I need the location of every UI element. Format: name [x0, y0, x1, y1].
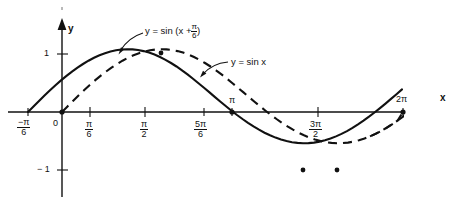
x-tick-neg-pi-6-numerator: −π [17, 118, 30, 127]
x-axis-label: x [440, 93, 446, 103]
x-tick-label-pi-6: π 6 [85, 120, 93, 140]
x-tick-pi-2-numerator: π [140, 120, 148, 129]
curve1-label-prefix: y = sin (x + [145, 25, 191, 36]
x-tick-pi-6-denominator: 6 [85, 129, 93, 139]
x-tick-label-zero: 0 [53, 119, 58, 128]
curve-label-sin-x: y = sin x [231, 57, 266, 67]
marker-origin [59, 109, 64, 114]
y-tick-label-neg-one: − 1 [37, 165, 50, 174]
x-tick-5pi-6-numerator: 5π [194, 120, 207, 129]
x-tick-label-pi: π [229, 96, 235, 105]
x-tick-5pi-6-denominator: 6 [194, 129, 207, 139]
curve-label-sin-x-plus-pi-over-6: y = sin (x + π 6 ) [145, 23, 200, 40]
marker-sinx-peak [159, 51, 164, 56]
marker-sinx-trough [335, 168, 340, 173]
x-tick-3pi-2-numerator: 3π [309, 120, 322, 129]
curve1-label-suffix: ) [197, 25, 200, 36]
leader-curve2 [200, 62, 228, 78]
marker-pi [229, 109, 234, 114]
y-tick-label-one: 1 [44, 49, 49, 58]
x-tick-pi-6-numerator: π [85, 120, 93, 129]
marker-2pi [400, 109, 405, 114]
x-tick-label-3pi-2: 3π 2 [309, 120, 322, 140]
x-tick-pi-2-denominator: 2 [140, 129, 148, 139]
x-tick-label-5pi-6: 5π 6 [194, 120, 207, 140]
x-tick-neg-pi-6-denominator: 6 [17, 127, 30, 137]
scan-speck-artifact [61, 7, 63, 10]
marker-shift-trough [301, 168, 306, 173]
y-axis-label: y [68, 24, 74, 34]
curve-sin-x-tail [370, 112, 403, 136]
x-tick-label-pi-2: π 2 [140, 120, 148, 140]
x-tick-label-neg-pi-6: −π 6 [17, 118, 30, 138]
x-tick-3pi-2-denominator: 2 [309, 129, 322, 139]
x-tick-label-2pi: 2π [396, 95, 407, 104]
